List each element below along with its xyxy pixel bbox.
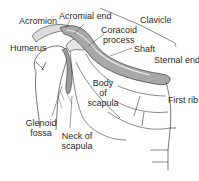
label-body-of-scapula-2: of (88, 88, 118, 98)
glenoid-region (58, 48, 72, 108)
label-glenoid-fossa-2: fossa (24, 128, 58, 138)
label-coracoid-process-1: Coracoid (101, 25, 137, 35)
label-acromion: Acromion (19, 16, 57, 26)
label-first-rib: First rib (168, 95, 198, 105)
label-acromial-end: Acromial end (59, 11, 112, 21)
label-shaft: Shaft (134, 44, 155, 54)
label-coracoid-process-2: process (103, 35, 135, 45)
label-glenoid-fossa-1: Glenoid (24, 118, 58, 128)
label-sternal-end: Sternal end (154, 55, 199, 65)
label-clavicle: Clavicle (140, 15, 172, 25)
label-body-of-scapula-1: Body (88, 78, 118, 88)
clavicle-diagram: Acromion Acromial end Clavicle Coracoid … (0, 0, 199, 181)
label-neck-of-scapula-1: Neck of (60, 131, 94, 141)
label-humerus: Humerus (10, 43, 47, 53)
label-neck-of-scapula-2: scapula (58, 141, 96, 151)
label-body-of-scapula-3: scapula (84, 98, 122, 108)
